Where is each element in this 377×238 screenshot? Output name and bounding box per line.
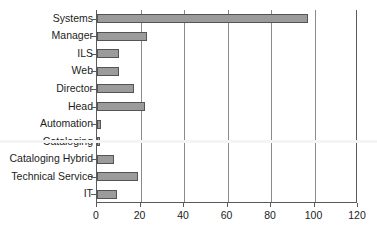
category-label: Technical Service: [0, 171, 93, 182]
value-tick-0: [96, 203, 97, 207]
bar: [97, 14, 308, 23]
category-axis-labels: SystemsManagerILSWebDirectorHeadAutomati…: [0, 10, 93, 203]
bar-chart: SystemsManagerILSWebDirectorHeadAutomati…: [0, 0, 377, 238]
category-label: Automation: [0, 118, 93, 129]
value-tick-label: 20: [120, 209, 160, 221]
bar: [97, 190, 117, 199]
bar: [97, 137, 100, 146]
bar-row: [97, 63, 356, 81]
category-label: Manager: [0, 30, 93, 41]
value-tick-60: [227, 203, 228, 207]
bar-row: [97, 45, 356, 63]
value-tick-label: 100: [294, 209, 334, 221]
category-label: Cataloging: [0, 136, 93, 147]
value-tick-20: [140, 203, 141, 207]
bar: [97, 172, 138, 181]
category-label: Systems: [0, 13, 93, 24]
bar-row: [97, 150, 356, 168]
value-tick-label: 80: [250, 209, 290, 221]
bar-row: [97, 10, 356, 28]
bar-row: [97, 98, 356, 116]
bar: [97, 49, 119, 58]
value-tick-40: [183, 203, 184, 207]
value-tick-100: [314, 203, 315, 207]
bar-row: [97, 133, 356, 151]
bar-row: [97, 185, 356, 203]
bar-row: [97, 80, 356, 98]
bar-row: [97, 115, 356, 133]
bar: [97, 102, 145, 111]
bar-rows: [97, 10, 356, 202]
value-tick-label: 120: [337, 209, 377, 221]
category-label: Cataloging Hybrid: [0, 153, 93, 164]
bar: [97, 84, 134, 93]
category-label: IT: [0, 188, 93, 199]
category-label: Web: [0, 65, 93, 76]
bar-row: [97, 168, 356, 186]
bar: [97, 67, 119, 76]
plot-area: [96, 10, 357, 203]
category-label: ILS: [0, 48, 93, 59]
bar: [97, 32, 147, 41]
value-tick-120: [357, 203, 358, 207]
bar: [97, 155, 114, 164]
bar: [97, 120, 101, 129]
category-label: Head: [0, 101, 93, 112]
value-tick-80: [270, 203, 271, 207]
bar-row: [97, 28, 356, 46]
value-tick-label: 0: [76, 209, 116, 221]
value-tick-label: 60: [207, 209, 247, 221]
value-tick-label: 40: [163, 209, 203, 221]
category-label: Director: [0, 83, 93, 94]
